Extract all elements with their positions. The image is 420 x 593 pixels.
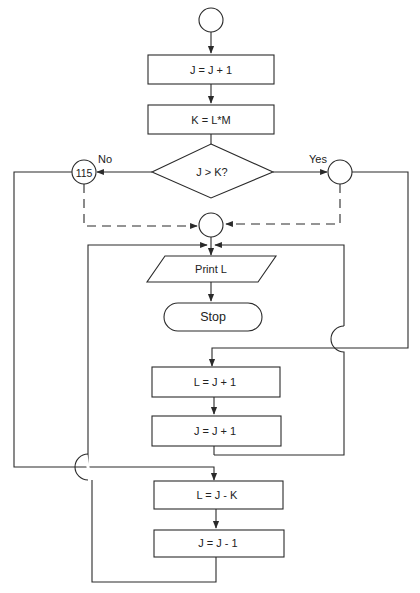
connector-label: 115 bbox=[76, 167, 93, 179]
process-label: J = J - 1 bbox=[198, 537, 237, 549]
no-path-to-p5 bbox=[73, 467, 214, 480]
process-label: L = J - K bbox=[197, 489, 239, 501]
connector-115: 115 bbox=[72, 160, 96, 184]
process-label: K = L*M bbox=[191, 114, 230, 126]
decision-label: J > K? bbox=[196, 166, 228, 178]
loop-hop-right bbox=[331, 326, 344, 368]
process-l-equals-j-minus-k: L = J - K bbox=[154, 481, 283, 509]
process-label: J = J + 1 bbox=[190, 64, 232, 76]
process-j-minus-1: J = J - 1 bbox=[154, 530, 284, 557]
yes-label: Yes bbox=[309, 153, 327, 165]
no-label: No bbox=[98, 153, 112, 165]
decision-j-gt-k: J > K? bbox=[152, 144, 273, 198]
terminal-stop: Stop bbox=[164, 303, 262, 331]
connector-yes bbox=[328, 160, 352, 184]
flowchart: J = J + 1 K = L*M J > K? No 115 Yes Prin… bbox=[0, 0, 420, 593]
dashed-from-yes bbox=[226, 184, 340, 224]
io-print-l: Print L bbox=[147, 256, 276, 282]
process-label: J = J + 1 bbox=[194, 425, 236, 437]
process-k-equals-lm: K = L*M bbox=[148, 105, 274, 134]
io-label: Print L bbox=[195, 263, 227, 275]
process-l-equals-j-plus-1: L = J + 1 bbox=[152, 367, 280, 397]
middle-connector bbox=[199, 213, 223, 237]
terminal-label: Stop bbox=[200, 310, 226, 324]
start-connector bbox=[199, 8, 223, 32]
process-j-plus-1-top: J = J + 1 bbox=[148, 55, 274, 84]
no-path-left bbox=[14, 172, 73, 467]
process-j-plus-1-lower: J = J + 1 bbox=[152, 416, 281, 446]
dashed-from-115 bbox=[84, 184, 197, 226]
process-label: L = J + 1 bbox=[194, 376, 236, 388]
